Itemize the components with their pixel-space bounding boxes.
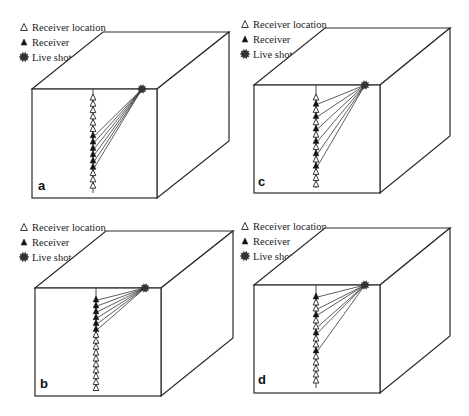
panel-label: b <box>40 376 48 391</box>
open-triangle-icon <box>242 223 249 230</box>
panel-d: Receiver locationReceiverLive shotd <box>240 221 450 393</box>
panel-label: a <box>38 178 46 193</box>
legend-receiver-label: Receiver <box>32 37 70 48</box>
open-triangle-icon <box>21 224 28 231</box>
legend-receiver-location-label: Receiver location <box>253 221 328 232</box>
panel-c: Receiver locationReceiverLive shotc <box>240 19 450 193</box>
legend-live-shot-label: Live shot <box>32 252 71 263</box>
starburst-icon <box>19 52 29 62</box>
panel-a: Receiver locationReceiverLive shota <box>19 22 229 198</box>
starburst-icon <box>19 252 29 262</box>
legend-receiver-location-label: Receiver location <box>32 22 107 33</box>
legend-receiver-label: Receiver <box>253 34 291 45</box>
open-triangle-icon <box>21 24 28 31</box>
filled-triangle-icon <box>21 39 27 45</box>
legend-receiver-label: Receiver <box>32 237 70 248</box>
starburst-icon <box>240 251 250 261</box>
panel-label: d <box>258 372 266 387</box>
panel-label: c <box>258 174 265 189</box>
legend-receiver-location-label: Receiver location <box>32 222 107 233</box>
legend-receiver-location-label: Receiver location <box>253 19 328 30</box>
filled-triangle-icon <box>242 36 248 42</box>
filled-triangle-icon <box>21 239 27 245</box>
figure-canvas: Receiver locationReceiverLive shotaRecei… <box>0 0 469 416</box>
open-triangle-icon <box>242 21 249 28</box>
panel-b: Receiver locationReceiverLive shotb <box>19 222 233 396</box>
filled-triangle-icon <box>242 238 248 244</box>
legend-receiver-label: Receiver <box>253 236 291 247</box>
starburst-icon <box>240 49 250 59</box>
